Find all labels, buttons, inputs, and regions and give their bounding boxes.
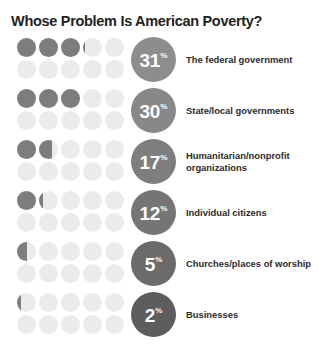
dot [39, 140, 58, 159]
dot [83, 111, 102, 130]
dot-fill [17, 89, 36, 108]
dot [17, 213, 36, 232]
percent-sign: % [160, 154, 167, 162]
percent-value: 30 [140, 102, 160, 121]
dot [83, 60, 102, 79]
dot [83, 89, 102, 108]
page-title: Whose Problem Is American Poverty? [11, 13, 262, 29]
dot-fill [17, 140, 36, 159]
percent-badge: 30% [131, 88, 176, 133]
dot [105, 60, 124, 79]
pictograph-row: 12%Individual citizens [0, 189, 319, 240]
dot-fill [17, 38, 36, 57]
dot [105, 315, 124, 334]
percent-badge-content: 30% [140, 102, 168, 121]
dot-fill [17, 242, 27, 261]
dot [17, 60, 36, 79]
dot [105, 162, 124, 181]
dot-fill [61, 89, 80, 108]
dot [17, 242, 36, 261]
percent-badge: 5% [131, 241, 176, 286]
dot [105, 89, 124, 108]
dot [61, 89, 80, 108]
dot [61, 315, 80, 334]
row-label: Individual citizens [186, 189, 316, 236]
dot [17, 38, 36, 57]
dot [17, 293, 36, 312]
dot [17, 111, 36, 130]
dot-fill [17, 191, 36, 210]
dot [105, 191, 124, 210]
dot [83, 140, 102, 159]
dot [39, 89, 58, 108]
dot [61, 293, 80, 312]
dot [39, 293, 58, 312]
percent-value: 2 [145, 306, 155, 325]
dot [39, 264, 58, 283]
row-label: Churches/places of worship [186, 240, 316, 287]
dot [61, 264, 80, 283]
dot-grid [17, 89, 127, 133]
dot [39, 60, 58, 79]
percent-sign: % [160, 205, 167, 213]
dot-fill [39, 89, 58, 108]
dot [39, 38, 58, 57]
percent-value: 17 [140, 153, 160, 172]
dot [61, 162, 80, 181]
percent-value: 5 [145, 255, 155, 274]
dot-grid [17, 191, 127, 235]
dot [83, 38, 102, 57]
dot [83, 315, 102, 334]
dot [61, 242, 80, 261]
dot-fill [39, 38, 58, 57]
dot-grid [17, 242, 127, 286]
row-label: The federal government [186, 36, 316, 83]
dot [17, 264, 36, 283]
dot-fill [61, 38, 80, 57]
dot-fill [17, 293, 21, 312]
dot [83, 162, 102, 181]
dot-grid [17, 293, 127, 337]
dot [61, 111, 80, 130]
dot [105, 213, 124, 232]
dot [105, 242, 124, 261]
percent-value: 31 [140, 51, 160, 70]
dot [39, 111, 58, 130]
dot [61, 191, 80, 210]
percent-badge-content: 5% [145, 255, 163, 274]
pictograph-row: 2%Businesses [0, 291, 319, 342]
dot [39, 315, 58, 334]
pictograph-row: 5%Churches/places of worship [0, 240, 319, 291]
dot [61, 38, 80, 57]
percent-sign: % [160, 103, 167, 111]
pictograph-row: 30%State/local governments [0, 87, 319, 138]
dot [17, 89, 36, 108]
dot [61, 213, 80, 232]
row-label: Businesses [186, 291, 316, 338]
percent-badge-content: 12% [140, 204, 168, 223]
dot [83, 242, 102, 261]
dot [105, 293, 124, 312]
percent-value: 12 [140, 204, 160, 223]
dot [105, 38, 124, 57]
dot [83, 213, 102, 232]
dot [17, 191, 36, 210]
percent-badge-content: 31% [140, 51, 168, 70]
pictograph-row: 17%Humanitarian/nonprofit organizations [0, 138, 319, 189]
dot [105, 111, 124, 130]
dot-grid [17, 140, 127, 184]
row-label: State/local governments [186, 87, 316, 134]
dot [83, 293, 102, 312]
dot [39, 213, 58, 232]
dot [39, 242, 58, 261]
dot [105, 264, 124, 283]
dot [17, 162, 36, 181]
dot-fill [39, 191, 43, 210]
percent-sign: % [155, 256, 162, 264]
percent-sign: % [155, 307, 162, 315]
dot-fill [39, 140, 52, 159]
dot [83, 264, 102, 283]
percent-badge: 17% [131, 139, 176, 184]
dot [39, 162, 58, 181]
dot-fill [83, 38, 85, 57]
